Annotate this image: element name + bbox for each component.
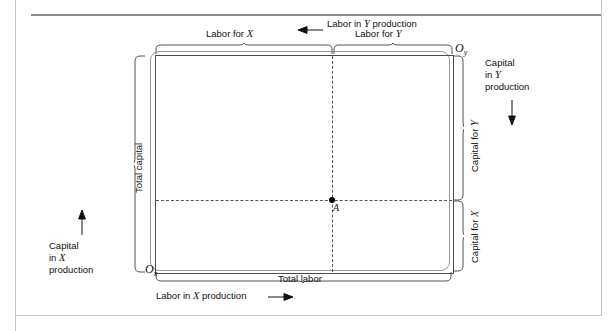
brace-labor-for-x [155,43,333,54]
figure-left-border [15,0,16,331]
figure-right-border [601,0,602,316]
label-capital-for-y-text: Capital for Y [469,120,480,172]
label-capital-for-x-text: Capital for X [469,211,480,263]
arrow-up-icon [77,210,87,236]
allocation-point-a-label: A [333,202,339,213]
arrow-left-icon [298,25,324,35]
dashed-vertical-line [332,56,333,272]
label-labor-in-x-production-text: Labor in X production [156,290,246,301]
arrow-right-icon [268,292,294,302]
brace-labor-for-y [333,43,453,54]
figure-bottom-border [15,315,602,316]
label-labor-for-x: Labor for X [206,28,253,40]
label-capital-in-y-production-line1: Capital [485,57,529,69]
arrow-down-icon [507,100,517,126]
figure-top-rule [31,14,601,16]
label-capital-in-x-production: Capital in X production [49,240,93,276]
brace-capital-for-y [452,55,464,201]
label-labor-for-x-text: Labor for X [206,28,253,39]
dashed-horizontal-line [156,200,452,201]
origin-y-label: Oy [455,41,467,57]
label-capital-in-y-production: Capital in Y production [485,57,529,93]
label-capital-in-y-production-line3: production [485,81,529,93]
label-capital-in-x-production-line3: production [49,264,93,276]
origin-y-letter: O [455,41,464,55]
label-capital-in-x-production-line2: in X [49,252,93,264]
origin-y-subscript: y [464,48,468,57]
origin-x-label: Ox [145,262,157,278]
label-total-labor-text: Total labor [278,273,322,284]
brace-capital-for-x [452,200,464,273]
label-capital-in-y-production-line2: in Y [485,69,529,81]
figure-container: A Labor for X Labor for [0,0,616,331]
label-labor-in-y-production-text: Labor in Y production [327,18,417,29]
label-capital-in-x-production-line1: Capital [49,240,93,252]
origin-x-letter: O [145,262,154,276]
label-labor-in-y-production: Labor in Y production [327,18,417,30]
label-labor-in-x-production: Labor in X production [156,290,246,302]
label-capital-for-x: Capital for X [469,211,481,263]
origin-x-subscript: x [154,269,158,278]
label-total-capital-text: Total capital [133,143,144,193]
label-capital-for-y: Capital for Y [469,120,481,172]
label-total-labor: Total labor [278,273,322,285]
edgeworth-box [155,55,454,274]
label-total-capital: Total capital [133,143,145,193]
